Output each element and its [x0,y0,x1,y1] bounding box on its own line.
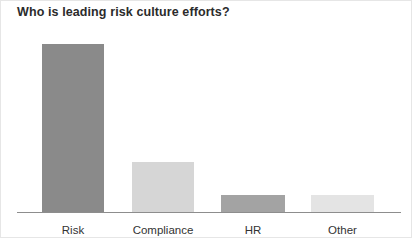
bar-other[interactable] [311,195,374,212]
bar-risk[interactable] [42,44,104,212]
bar-hr[interactable] [221,195,285,212]
bar-group: 6% HR [221,1,285,238]
category-label-other: Other [311,224,374,236]
plot-area: 69% Risk 19% Compliance 6% HR 6% Other [1,1,412,238]
bar-chart-figure: Who is leading risk culture efforts? 69%… [0,0,412,238]
bar-compliance[interactable] [132,162,194,212]
category-label-risk: Risk [42,224,104,236]
category-label-compliance: Compliance [132,224,194,236]
bar-group: 6% Other [311,1,374,238]
bar-group: 69% Risk [42,1,104,238]
category-label-hr: HR [221,224,285,236]
x-axis-line [17,212,401,213]
bar-group: 19% Compliance [132,1,194,238]
